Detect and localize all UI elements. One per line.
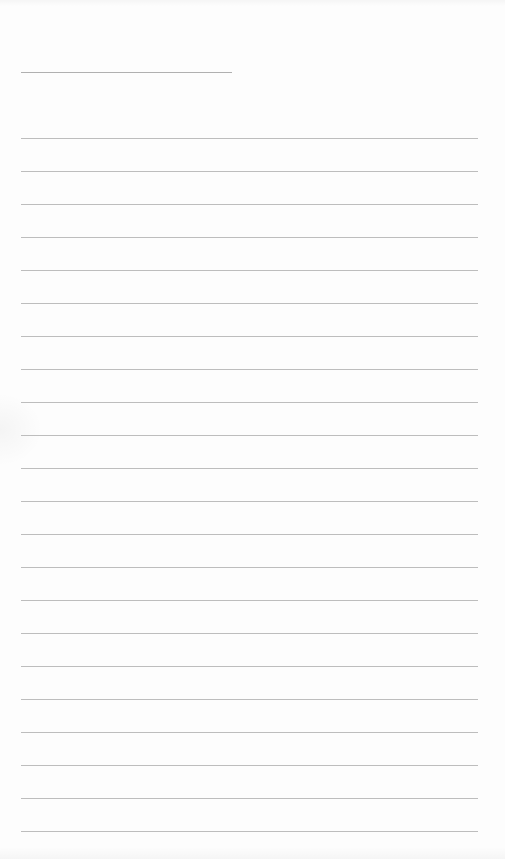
ruled-line	[21, 369, 478, 370]
ruled-line	[21, 303, 478, 304]
ruled-line	[21, 237, 478, 238]
title-line	[21, 72, 232, 73]
ruled-line	[21, 468, 478, 469]
notepad-sheet	[0, 0, 505, 859]
ruled-line	[21, 435, 478, 436]
ruled-line	[21, 699, 478, 700]
ruled-line	[21, 732, 478, 733]
ruled-line	[21, 171, 478, 172]
ruled-line	[21, 336, 478, 337]
ruled-line	[21, 501, 478, 502]
ruled-line	[21, 534, 478, 535]
ruled-line	[21, 402, 478, 403]
ruled-line	[21, 138, 478, 139]
ruled-line	[21, 600, 478, 601]
ruled-line	[21, 633, 478, 634]
ruled-line	[21, 666, 478, 667]
ruled-line	[21, 270, 478, 271]
ruled-line	[21, 831, 478, 832]
ruled-line	[21, 567, 478, 568]
ruled-line	[21, 798, 478, 799]
ruled-line	[21, 765, 478, 766]
ruled-line	[21, 204, 478, 205]
